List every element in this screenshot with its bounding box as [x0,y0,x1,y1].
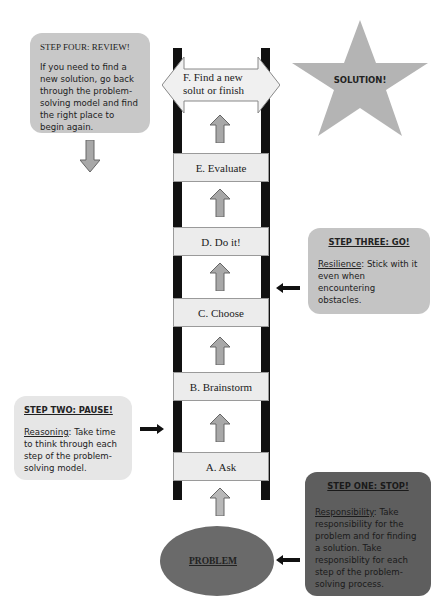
rung-ask: A. Ask [173,452,269,481]
rung-label: A. Ask [206,461,237,473]
card-step-two: STEP TWO: PAUSE! Reasoning: Take time to… [14,396,132,480]
rung-brainstorm: B. Brainstorm [173,372,269,401]
card-term: Reasoning [24,427,69,437]
card-step-three: STEP THREE: GO! Resilience: Stick with i… [308,228,430,314]
up-arrow-icon [210,115,230,143]
rung-label: B. Brainstorm [190,381,252,393]
card-step-one: STEP ONE: STOP! Responsibility: Take res… [305,472,431,596]
finish-label: F. Find a new solut or finish [183,71,263,97]
up-arrow-icon [210,189,230,217]
up-arrow-icon [210,488,230,516]
card-body: If you need to find a new solution, go b… [40,61,140,133]
left-arrow-icon [276,283,300,293]
rung-label: D. Do it! [201,236,240,248]
rung-label: C. Choose [198,307,244,319]
rung-choose: C. Choose [173,298,269,327]
problem-ellipse: PROBLEM [160,526,274,596]
up-arrow-icon [210,263,230,291]
rung-do-it: D. Do it! [173,227,269,256]
card-term: Responsibility [315,507,374,517]
card-title: STEP ONE: STOP! [315,480,421,492]
up-arrow-icon [210,414,230,442]
ladder-rail-right [261,48,270,500]
rung-evaluate: E. Evaluate [173,153,269,182]
ladder-rail-left [173,48,182,500]
card-body: Reasoning: Take time to think through ea… [24,426,122,474]
card-body: Responsibility: Take responsibility for … [315,506,421,590]
card-body: Resilience: Stick with it even when enco… [318,258,420,306]
card-term: Resilience [318,259,361,269]
problem-label: PROBLEM [189,556,237,566]
rung-label: E. Evaluate [196,162,247,174]
solution-label: SOLUTION! [330,75,390,85]
card-step-four: STEP FOUR: REVIEW! If you need to find a… [30,33,150,133]
left-arrow-icon [276,555,300,565]
up-arrow-icon [210,337,230,365]
card-title: STEP FOUR: REVIEW! [40,41,140,53]
down-arrow-icon [80,140,100,173]
card-title: STEP TWO: PAUSE! [24,404,122,416]
card-title: STEP THREE: GO! [318,236,420,248]
right-arrow-icon [140,424,164,434]
